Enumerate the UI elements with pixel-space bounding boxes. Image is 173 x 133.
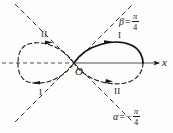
arrow-right-lower [105,79,113,83]
branch-label-left-upper: II [41,30,47,39]
alpha-fraction: π 4 [133,107,140,126]
beta-numerator: π [132,12,138,21]
figure-canvas [0,0,173,133]
branch-label-right-lower: II [114,87,120,96]
lemniscate-figure: II I I II O x β = π 4 α = − π 4 [0,0,173,133]
branch-label-left-lower: I [39,88,42,97]
beta-denominator: 4 [132,23,138,32]
x-axis-label: x [162,57,167,68]
alpha-symbol: α [113,112,118,122]
beta-symbol: β [119,17,124,27]
alpha-numerator: π [133,107,139,116]
alpha-sign: − [126,112,132,122]
curve-left-upper-dashed [18,43,74,63]
beta-fraction: π 4 [132,12,139,31]
branch-label-right-upper: I [118,31,121,40]
alpha-denominator: 4 [133,118,139,127]
arrow-left-lower [32,81,40,85]
curve-left-lower-dashed [18,63,74,83]
curve-right-upper-solid [74,42,143,63]
origin-label: O [75,66,83,77]
angle-label-beta: β = π 4 [119,12,139,31]
angle-label-alpha: α = − π 4 [113,107,140,126]
alpha-equals: = [119,112,125,122]
beta-equals: = [125,17,131,27]
